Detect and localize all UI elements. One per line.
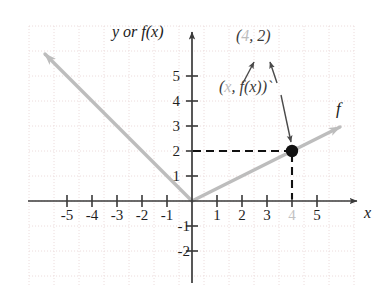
data-point-marker bbox=[286, 145, 298, 157]
y-tick-label-2: 2 bbox=[166, 144, 180, 159]
x-tick-label-neg5: -5 bbox=[57, 208, 77, 223]
y-tick-label-1: 1 bbox=[166, 169, 180, 184]
x-tick-label-3: 3 bbox=[260, 208, 274, 223]
annotation-leaders bbox=[243, 62, 291, 142]
x-tick-label-4: 4 bbox=[285, 208, 299, 223]
leader-label-to-point bbox=[281, 95, 291, 142]
y-tick-label-3: 3 bbox=[166, 119, 180, 134]
y-axis-label: y or f(x) bbox=[112, 24, 164, 40]
x-axis-label: x bbox=[364, 205, 371, 221]
x-tick-label-5: 5 bbox=[310, 208, 324, 223]
y-tick-label-5: 5 bbox=[166, 69, 180, 84]
annotation-generic-coords: (x, f(x))` bbox=[219, 79, 272, 95]
generic-tick-mark: ` bbox=[267, 78, 272, 95]
y-tick-label-neg2: -2 bbox=[168, 244, 190, 259]
x-tick-label-neg2: -2 bbox=[132, 208, 152, 223]
x-tick-label-neg4: -4 bbox=[82, 208, 102, 223]
plot-canvas bbox=[0, 0, 386, 294]
x-tick-label-2: 2 bbox=[235, 208, 249, 223]
axes bbox=[28, 32, 357, 283]
x-tick-label-1: 1 bbox=[210, 208, 224, 223]
function-label: f bbox=[336, 100, 341, 117]
annotation-point-coords: (4, 2) bbox=[236, 28, 271, 44]
annotation-paren-close: ) bbox=[265, 27, 270, 44]
y-tick-label-neg1: -1 bbox=[168, 219, 190, 234]
x-tick-label-neg3: -3 bbox=[107, 208, 127, 223]
y-tick-label-4: 4 bbox=[166, 94, 180, 109]
function-graph-figure: y or f(x) x f (4, 2) (x, f(x))` -5 -4 -3… bbox=[0, 0, 386, 294]
generic-fx-symbol: f(x) bbox=[239, 78, 261, 95]
